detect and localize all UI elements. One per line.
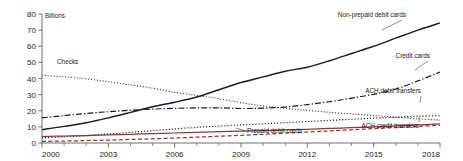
y-tick-label: 20	[27, 107, 36, 116]
series-label-non-prepaid-debit-cards: Non-prepaid debit cards	[338, 11, 406, 19]
annotation-leader	[420, 96, 421, 103]
annotation-leader	[382, 20, 402, 30]
series-line-non-prepaid-debit-cards	[42, 23, 440, 130]
x-tick-label: 2003	[99, 150, 117, 159]
line-chart: 01020304050607080 2000200320062009201220…	[0, 0, 463, 161]
y-tick-label: 40	[27, 75, 36, 84]
chart-figure: 01020304050607080 2000200320062009201220…	[0, 0, 463, 161]
series-label-prepaid-debit-cards: Prepaid debit cards	[247, 127, 302, 135]
series-label-ach-credit-transfers: ACH credit transfers	[361, 122, 419, 129]
x-tick-label: 2012	[298, 150, 316, 159]
x-tick-label: 2018	[422, 150, 440, 159]
y-axis-unit-label: Billions	[45, 12, 65, 19]
y-tick-label: 70	[27, 26, 36, 35]
y-tick-label: 60	[27, 42, 36, 51]
series-label-checks: Checks	[57, 58, 78, 65]
y-tick-label: 10	[27, 123, 36, 132]
series-label-ach-debit-transfers: ACH debit transfers	[365, 87, 421, 94]
y-tick-label: 50	[27, 58, 36, 67]
x-tick-label: 2000	[42, 150, 60, 159]
x-axis: 2000200320062009201220152018	[42, 143, 441, 159]
series-line-credit-cards	[42, 72, 440, 118]
x-tick-label: 2015	[365, 150, 383, 159]
y-tick-label: 80	[27, 10, 36, 19]
annotation-leader	[415, 61, 428, 70]
y-tick-label: 30	[27, 91, 36, 100]
series-label-credit-cards: Credit cards	[396, 52, 430, 59]
y-tick-label: 0	[32, 139, 37, 148]
annotation-leader	[236, 128, 246, 131]
x-tick-label: 2006	[166, 150, 184, 159]
x-tick-label: 2009	[232, 150, 250, 159]
y-axis: 01020304050607080	[27, 10, 42, 148]
